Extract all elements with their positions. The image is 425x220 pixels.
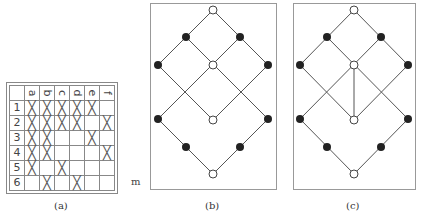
caption-c: (c) [346, 200, 359, 211]
table-row: 4╳╳╳ [10, 146, 115, 161]
col-header: d [70, 90, 84, 97]
caption-b: (b) [205, 200, 219, 211]
lattice-c [293, 0, 421, 192]
col-header: e [85, 90, 99, 97]
table-row: 3╳╳╳ [10, 131, 115, 146]
table-row: 1╳╳╳╳╳ [10, 101, 115, 116]
lattice-b [150, 0, 278, 192]
col-header: c [55, 90, 69, 96]
col-header: b [40, 90, 54, 97]
col-header: a [25, 90, 39, 97]
table-row: 2╳╳╳╳╳ [10, 116, 115, 131]
caption-a: (a) [54, 200, 68, 211]
table-row: 5╳╳ [10, 161, 115, 176]
col-header: f [100, 91, 114, 95]
stray-label: m [131, 176, 140, 187]
table-row: 6╳╳ [10, 176, 115, 191]
context-table: a b c d e f 1╳╳╳╳╳ 2╳╳╳╳╳ 3╳╳╳ 4╳╳╳ 5╳╳ … [9, 85, 115, 191]
